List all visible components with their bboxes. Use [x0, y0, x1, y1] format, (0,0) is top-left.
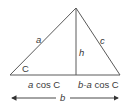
triangle-diagram: a c h C a cos C b-a cos C b — [0, 0, 127, 108]
label-base-right-segment: b-a cos C — [78, 80, 119, 90]
label-cos-c-right: cos C — [94, 79, 118, 90]
label-a-symbol: a — [28, 79, 33, 90]
label-base-total-b: b — [60, 93, 65, 103]
label-angle-c: C — [22, 64, 29, 74]
side-c-line — [76, 8, 120, 75]
label-cos-c: cos C — [36, 79, 60, 90]
label-altitude-h: h — [79, 48, 84, 58]
side-a-line — [10, 8, 76, 75]
label-base-left-segment: a cos C — [28, 80, 60, 90]
label-side-c: c — [100, 36, 105, 46]
label-b-minus-a: b-a — [78, 79, 92, 90]
label-side-a: a — [36, 35, 41, 45]
